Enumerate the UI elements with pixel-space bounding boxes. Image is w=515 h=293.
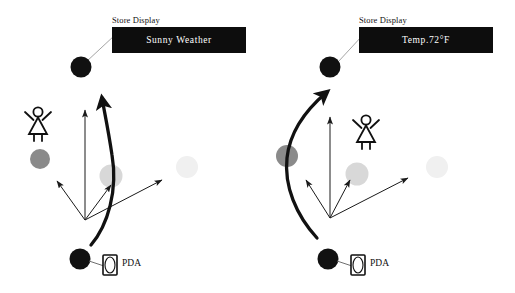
context-node-mid: [100, 165, 123, 188]
user-device-node: [70, 249, 91, 270]
store-display-text: Sunny Weather: [146, 35, 212, 45]
arrow-right: [330, 178, 408, 218]
arrow-up-left: [57, 181, 85, 220]
person-figure-icon: [353, 115, 379, 149]
store-display-box: Temp.72°F: [359, 27, 493, 53]
panel-left: Store Display Sunny Weather PDA: [0, 0, 257, 293]
context-node-far: [426, 156, 448, 178]
arrow-up-left: [306, 180, 330, 218]
person-figure-icon: [25, 107, 51, 141]
pda-leader-line: [89, 261, 104, 266]
store-display-box: Sunny Weather: [112, 27, 246, 53]
arrow-up-right: [330, 180, 350, 218]
context-node-far: [176, 156, 198, 178]
arrow-right: [85, 180, 162, 220]
context-node-near: [30, 149, 50, 169]
panel-right: Store Display Temp.72°F PDA: [258, 0, 515, 293]
diagram-canvas: Store Display Sunny Weather PDA: [0, 0, 515, 293]
store-display-text: Temp.72°F: [402, 35, 450, 45]
store-display-node: [320, 57, 341, 78]
store-display-caption: Store Display: [112, 15, 160, 25]
store-display-caption: Store Display: [359, 15, 407, 25]
user-device-node: [318, 249, 339, 270]
pda-screen-icon: [105, 257, 115, 273]
pda-label: PDA: [370, 258, 389, 268]
pda-screen-icon: [353, 257, 363, 273]
store-display-node: [71, 57, 92, 78]
display-leader-line: [86, 35, 115, 62]
pda-label: PDA: [122, 258, 141, 268]
pda-leader-line: [337, 261, 352, 266]
